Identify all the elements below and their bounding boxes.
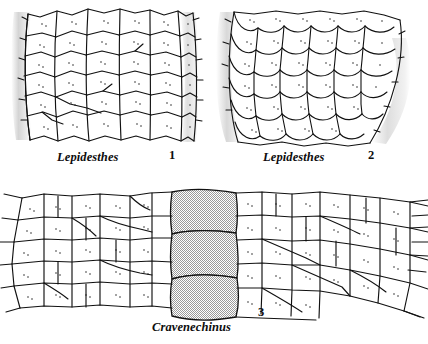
figure-panel-1: Lepidesthes 1 xyxy=(0,0,214,172)
figure-panel-3: Cravenechinus 3 xyxy=(0,172,428,344)
panel-2-tubercle-pores xyxy=(244,18,383,133)
panel-3-taxon-label: Cravenechinus xyxy=(152,320,231,335)
panel-1-figure-number: 1 xyxy=(169,148,175,163)
panel-2-illustration xyxy=(214,0,428,150)
panel-1-plate-mesh xyxy=(18,9,203,141)
panel-3-right-plate-mesh xyxy=(236,192,428,320)
panel-3-illustration xyxy=(0,172,428,322)
figure-panel-2: Lepidesthes 2 xyxy=(214,0,428,172)
panel-1-taxon-label: Lepidesthes xyxy=(57,150,119,165)
panel-3-shaded-plate-column xyxy=(171,189,239,319)
panel-2-scale-mesh xyxy=(222,11,405,146)
panel-3-left-plate-mesh xyxy=(0,192,172,312)
panel-2-figure-number: 2 xyxy=(368,148,374,163)
figure-plate: Lepidesthes 1 xyxy=(0,0,428,344)
panel-1-illustration xyxy=(0,0,214,150)
panel-2-taxon-label: Lepidesthes xyxy=(263,150,325,165)
panel-3-figure-number: 3 xyxy=(258,305,264,320)
